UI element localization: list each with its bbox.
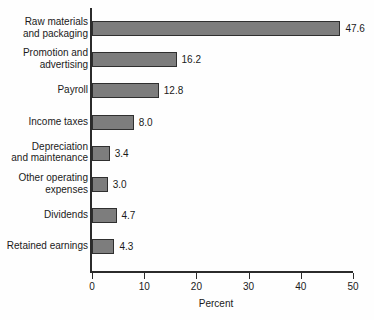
bar-value-label: 47.6 (345, 22, 364, 35)
category-label: Retained earnings (0, 240, 88, 252)
x-axis-tick (301, 273, 302, 279)
x-axis-tick (249, 273, 250, 279)
category-label: Payroll (0, 84, 88, 96)
bar (92, 208, 117, 223)
category-label: Dividends (0, 209, 88, 221)
bar (92, 146, 110, 161)
bar-value-label: 3.4 (115, 147, 129, 160)
bar-value-label: 4.7 (122, 209, 136, 222)
bar-row: Depreciation and maintenance3.4 (0, 139, 374, 169)
x-axis-tick (196, 273, 197, 279)
bar-value-label: 16.2 (182, 53, 201, 66)
bar-value-label: 3.0 (113, 178, 127, 191)
bar-row: Raw materials and packaging47.6 (0, 14, 374, 44)
x-axis-tick-label: 20 (191, 281, 202, 293)
bar-row: Retained earnings4.3 (0, 232, 374, 262)
x-axis-tick (353, 273, 354, 279)
bar-row: Promotion and advertising16.2 (0, 45, 374, 75)
bar-value-label: 8.0 (139, 116, 153, 129)
bar-value-label: 12.8 (164, 84, 183, 97)
bar-row: Income taxes8.0 (0, 108, 374, 138)
x-axis-title: Percent (0, 298, 374, 309)
x-axis-tick (144, 273, 145, 279)
x-axis-tick-label: 30 (243, 281, 254, 293)
category-label: Other operating expenses (0, 172, 88, 195)
bar-value-label: 4.3 (119, 240, 133, 253)
x-axis-tick (92, 273, 93, 279)
category-label: Raw materials and packaging (0, 16, 88, 39)
category-label: Promotion and advertising (0, 47, 88, 70)
bar (92, 52, 177, 67)
category-label: Depreciation and maintenance (0, 141, 88, 164)
x-axis-line (90, 271, 353, 273)
x-axis-tick-label: 50 (347, 281, 358, 293)
bar-chart: Raw materials and packaging47.6Promotion… (0, 0, 374, 320)
x-axis-tick-label: 0 (89, 281, 95, 293)
bar-row: Dividends4.7 (0, 201, 374, 231)
bar (92, 177, 108, 192)
bar (92, 239, 114, 254)
x-axis-title-text: Percent (199, 298, 233, 309)
bar (92, 21, 340, 36)
bar (92, 83, 159, 98)
x-axis-tick-label: 40 (295, 281, 306, 293)
bar-row: Other operating expenses3.0 (0, 170, 374, 200)
x-axis-tick-label: 10 (139, 281, 150, 293)
bar (92, 115, 134, 130)
category-label: Income taxes (0, 116, 88, 128)
bar-row: Payroll12.8 (0, 76, 374, 106)
